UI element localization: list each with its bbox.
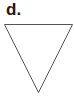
inverted-triangle-shape (0, 0, 74, 98)
triangle-outline (5, 25, 73, 93)
